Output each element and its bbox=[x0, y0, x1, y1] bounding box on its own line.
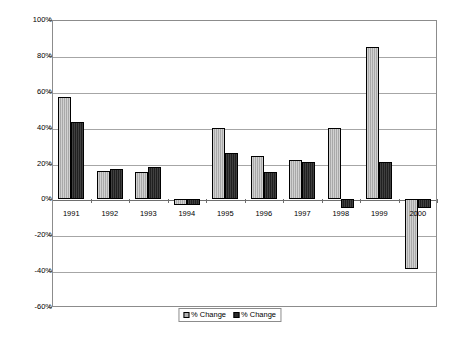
y-axis-tick-label: -40% bbox=[6, 267, 52, 275]
x-axis-tick-label-2000: 2000 bbox=[399, 209, 438, 218]
x-axis-tick-mark bbox=[360, 199, 361, 203]
y-axis-tick-label: 20% bbox=[6, 160, 52, 168]
bar-1996-series2 bbox=[264, 172, 277, 199]
x-axis-tick-label-1998: 1998 bbox=[322, 209, 361, 218]
bar-1998-series1 bbox=[328, 128, 341, 200]
y-axis: 100%80%60%40%20%0%-20%-40%-60% bbox=[0, 20, 52, 308]
legend-label: % Change bbox=[241, 310, 276, 319]
legend-label: % Change bbox=[191, 310, 226, 319]
legend-swatch-icon bbox=[233, 312, 239, 318]
y-axis-tick-label: 60% bbox=[6, 88, 52, 96]
bar-1992-series1 bbox=[97, 171, 110, 200]
bar-1999-series2 bbox=[379, 162, 392, 200]
bar-1995-series1 bbox=[212, 128, 225, 200]
bar-chart: 100%80%60%40%20%0%-20%-40%-60% 199119921… bbox=[0, 0, 459, 337]
x-axis-tick-label-1991: 1991 bbox=[52, 209, 91, 218]
x-axis-tick-label-1992: 1992 bbox=[91, 209, 130, 218]
x-axis-tick-label-1996: 1996 bbox=[245, 209, 284, 218]
bar-1999-series1 bbox=[366, 47, 379, 199]
bar-1991-series1 bbox=[58, 97, 71, 199]
x-axis-tick-label-1999: 1999 bbox=[360, 209, 399, 218]
x-axis-tick-mark bbox=[283, 199, 284, 203]
y-axis-tick-label: 40% bbox=[6, 124, 52, 132]
x-axis-tick-mark bbox=[399, 199, 400, 203]
x-axis: 1991199219931994199519961997199819992000 bbox=[52, 199, 437, 223]
bar-1996-series1 bbox=[251, 156, 264, 199]
y-axis-tick-label: -60% bbox=[6, 303, 52, 311]
chart-legend: % Change% Change bbox=[178, 308, 281, 322]
y-axis-tick-label: 100% bbox=[6, 16, 52, 24]
bar-1997-series2 bbox=[302, 162, 315, 200]
y-axis-tick-label: -20% bbox=[6, 231, 52, 239]
x-axis-tick-mark bbox=[245, 199, 246, 203]
x-axis-tick-mark bbox=[206, 199, 207, 203]
x-axis-tick-label-1997: 1997 bbox=[283, 209, 322, 218]
bar-1995-series2 bbox=[225, 153, 238, 200]
x-axis-tick-mark bbox=[437, 199, 438, 203]
x-axis-tick-mark bbox=[129, 199, 130, 203]
y-axis-tick-label: 0% bbox=[6, 195, 52, 203]
legend-entry-1: % Change bbox=[183, 310, 226, 319]
x-axis-tick-label-1994: 1994 bbox=[168, 209, 207, 218]
x-axis-tick-mark bbox=[168, 199, 169, 203]
bar-1992-series2 bbox=[110, 169, 123, 199]
bar-1991-series2 bbox=[71, 122, 84, 199]
y-axis-tick-label: 80% bbox=[6, 52, 52, 60]
x-axis-tick-mark bbox=[322, 199, 323, 203]
legend-entry-2: % Change bbox=[233, 310, 276, 319]
legend-swatch-icon bbox=[183, 312, 189, 318]
x-axis-tick-label-1995: 1995 bbox=[206, 209, 245, 218]
bar-1997-series1 bbox=[289, 160, 302, 199]
x-axis-tick-label-1993: 1993 bbox=[129, 209, 168, 218]
bar-1993-series1 bbox=[135, 172, 148, 199]
x-axis-tick-mark bbox=[91, 199, 92, 203]
bars-layer bbox=[52, 20, 437, 307]
y-axis-tick-mark bbox=[48, 307, 52, 308]
bar-1993-series2 bbox=[148, 167, 161, 199]
